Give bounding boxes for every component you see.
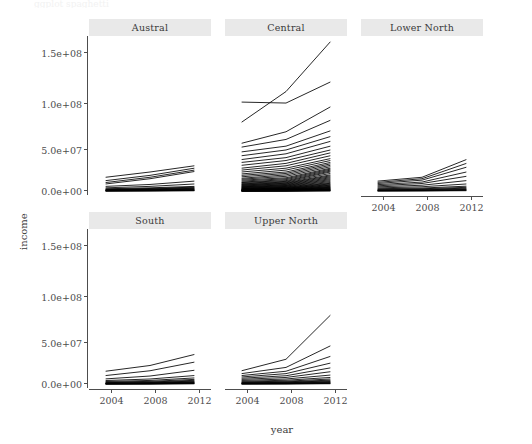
facet-strip-label: Lower North [390, 22, 454, 33]
series-line [242, 120, 331, 147]
facet-strip-label: South [135, 215, 164, 226]
x-tick-label: 2004 [362, 202, 405, 213]
x-tick-mark [291, 390, 292, 393]
y-axis-line-row0 [87, 36, 88, 195]
clipped-top-text: ggplot spaghetti [34, 0, 204, 8]
x-tick-mark [471, 197, 472, 200]
series-line [242, 42, 331, 122]
y-tick-mark [84, 245, 87, 246]
series-canvas-austral [89, 36, 211, 195]
x-axis-line-south [89, 389, 211, 390]
plot-figure: ggplot spaghetti income year Austral Cen… [0, 0, 532, 444]
facet-strip-south: South [89, 212, 211, 229]
series-line [242, 131, 331, 152]
x-tick-mark [199, 390, 200, 393]
series-line [378, 163, 467, 182]
series-line [106, 370, 195, 379]
facet-strip-central: Central [225, 19, 347, 36]
y-tick-label: 0.0e+00 [24, 186, 82, 197]
y-tick-label: 1.0e+08 [24, 292, 82, 303]
facet-panel-upper-north [225, 229, 347, 388]
facet-strip-label: Austral [132, 22, 168, 33]
x-tick-mark [427, 197, 428, 200]
facet-strip-label: Upper North [254, 215, 318, 226]
series-line [106, 354, 195, 371]
series-canvas-central [225, 36, 347, 195]
series-line [378, 160, 467, 182]
x-axis-label: year [224, 424, 340, 435]
y-tick-label: 5.0e+07 [24, 145, 82, 156]
y-tick-mark [84, 190, 87, 191]
x-axis-line-upper-north [225, 389, 347, 390]
x-tick-label: 2008 [134, 395, 177, 406]
y-tick-label: 1.5e+08 [24, 241, 82, 252]
x-tick-label: 2008 [406, 202, 449, 213]
x-tick-label: 2004 [90, 395, 133, 406]
series-line [242, 82, 331, 103]
y-tick-mark [84, 383, 87, 384]
series-line [242, 346, 331, 374]
y-tick-label: 1.5e+08 [24, 48, 82, 59]
y-tick-mark [84, 103, 87, 104]
y-axis-line-row1 [87, 229, 88, 388]
facet-panel-central [225, 36, 347, 195]
y-tick-label: 1.0e+08 [24, 99, 82, 110]
x-tick-label: 2008 [270, 395, 313, 406]
series-line [242, 315, 331, 371]
facet-panel-lower-north [361, 36, 483, 195]
y-tick-label: 5.0e+07 [24, 338, 82, 349]
x-axis-line-lower-north [361, 196, 483, 197]
x-tick-mark [335, 390, 336, 393]
facet-strip-label: Central [267, 22, 304, 33]
x-tick-mark [111, 390, 112, 393]
x-tick-label: 2004 [226, 395, 269, 406]
facet-strip-lower-north: Lower North [361, 19, 483, 36]
series-line [378, 184, 467, 188]
series-line [106, 181, 195, 186]
series-canvas-upper-north [225, 229, 347, 388]
x-tick-label: 2012 [314, 395, 357, 406]
x-tick-label: 2012 [178, 395, 221, 406]
x-tick-mark [155, 390, 156, 393]
facet-strip-austral: Austral [89, 19, 211, 36]
y-tick-mark [84, 149, 87, 150]
facet-strip-upper-north: Upper North [225, 212, 347, 229]
facet-panel-austral [89, 36, 211, 195]
y-tick-mark [84, 296, 87, 297]
series-line [106, 362, 195, 375]
series-line [242, 107, 331, 143]
x-tick-mark [247, 390, 248, 393]
x-tick-mark [383, 197, 384, 200]
y-tick-mark [84, 342, 87, 343]
y-tick-label: 0.0e+00 [24, 379, 82, 390]
facet-panel-south [89, 229, 211, 388]
series-canvas-lower-north [361, 36, 483, 195]
series-canvas-south [89, 229, 211, 388]
y-tick-mark [84, 52, 87, 53]
x-tick-label: 2012 [450, 202, 493, 213]
